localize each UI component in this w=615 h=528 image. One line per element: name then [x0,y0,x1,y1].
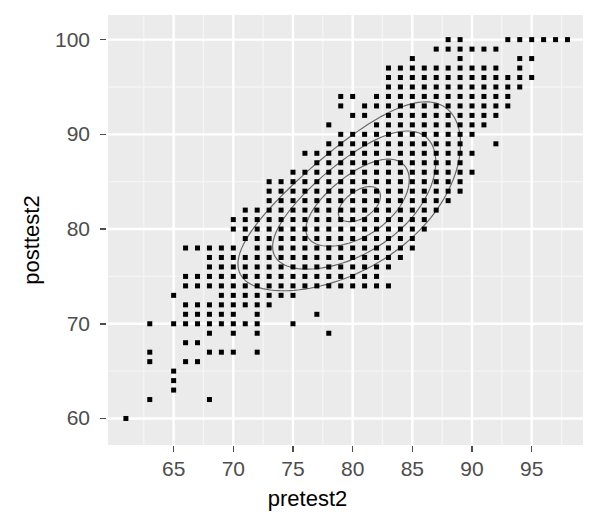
plot-panel [108,15,583,445]
x-axis-tick-label: 70 [203,458,263,479]
x-axis-tick-label: 85 [382,458,442,479]
x-axis-title: pretest2 [0,488,615,510]
scatter-plot-figure: 60708090100 65707580859095 pretest2 post… [0,0,615,528]
major-gridlines [108,15,583,445]
x-axis-tick-mark [352,446,354,452]
x-axis-tick-label: 90 [442,458,502,479]
x-axis-tick-label: 75 [263,458,323,479]
x-axis-tick-mark [531,446,533,452]
density-contour-lines [238,102,461,291]
y-axis-tick-mark [100,228,106,230]
x-axis-tick-mark [233,446,235,452]
x-axis-tick-mark [412,446,414,452]
x-axis-tick-mark [292,446,294,452]
y-axis-title-wrap: posttest2 [10,15,50,445]
y-axis-tick-mark [100,134,106,136]
x-axis-tick-mark [471,446,473,452]
x-axis-tick-label: 95 [502,458,562,479]
y-axis-title: posttest2 [21,70,43,410]
plot-canvas [108,15,583,445]
x-axis-tick-mark [173,446,175,452]
y-axis-tick-mark [100,418,106,420]
x-axis-tick-label: 80 [323,458,383,479]
y-axis-tick-mark [100,39,106,41]
x-axis-tick-label: 65 [144,458,204,479]
y-axis-tick-mark [100,323,106,325]
